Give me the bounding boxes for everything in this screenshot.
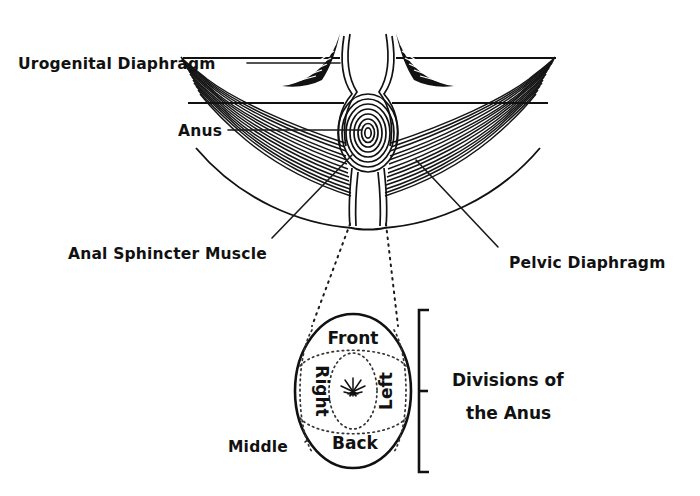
label-region-right: Right — [312, 365, 332, 416]
label-anal-sphincter-muscle: Anal Sphincter Muscle — [68, 245, 267, 263]
label-region-left: Left — [376, 372, 396, 410]
label-region-back: Back — [332, 433, 379, 453]
label-pelvic-diaphragm: Pelvic Diaphragm — [509, 254, 666, 272]
label-divisions-title-line1: Divisions of — [452, 370, 564, 390]
anatomy-figure: Urogenital Diaphragm Anus Anal Sphincter… — [0, 0, 700, 496]
label-middle: Middle — [228, 438, 288, 456]
label-region-front: Front — [328, 328, 379, 348]
label-urogenital-diaphragm: Urogenital Diaphragm — [18, 55, 216, 73]
figure-canvas: Urogenital Diaphragm Anus Anal Sphincter… — [0, 0, 700, 496]
label-anus: Anus — [178, 122, 222, 140]
label-divisions-title-line2: the Anus — [466, 403, 551, 423]
